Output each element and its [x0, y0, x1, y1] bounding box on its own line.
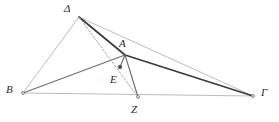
- diagram-canvas: [0, 0, 279, 122]
- vertex-label-beta: B: [6, 84, 13, 95]
- vertex-label-alpha: Α: [119, 38, 126, 49]
- segment-alpha-gamma: [125, 55, 253, 96]
- segment-layer: [23, 17, 253, 97]
- segment-delta-gamma: [79, 17, 253, 96]
- point-marker-beta: [22, 92, 25, 95]
- vertex-label-zeta: Z: [131, 104, 137, 115]
- point-marker-zeta: [137, 96, 140, 99]
- segment-alpha-zeta: [125, 55, 138, 97]
- point-marker-gamma: [252, 95, 255, 98]
- point-marker-epsilon: [118, 65, 122, 69]
- vertex-label-epsilon: E: [110, 74, 117, 85]
- geometry-figure: ΔΑBΓEZ: [0, 0, 279, 122]
- segment-delta-alpha: [79, 17, 125, 55]
- vertex-label-gamma: Γ: [261, 87, 267, 98]
- vertex-label-delta: Δ: [64, 3, 70, 14]
- segment-delta-beta: [23, 17, 79, 93]
